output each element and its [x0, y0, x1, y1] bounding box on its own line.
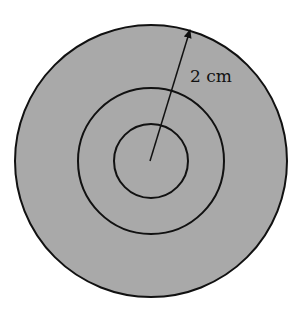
concentric-circles-diagram: 2 cm: [0, 0, 301, 320]
radius-label: 2 cm: [190, 66, 232, 86]
outer-circle: [15, 25, 287, 297]
